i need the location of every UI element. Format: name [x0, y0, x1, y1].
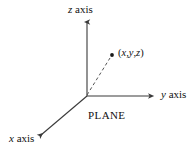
- origin-to-point-dashed-line: [87, 58, 110, 95]
- z-axis-label: z axis: [68, 4, 93, 15]
- x-axis-line: [41, 96, 87, 135]
- x-axis-label: x axis: [9, 133, 34, 144]
- paren-close: ): [140, 47, 144, 58]
- axes-drawing: [0, 0, 196, 151]
- y-axis-label: y axis: [161, 89, 186, 100]
- plane-label: PLANE: [88, 110, 125, 121]
- z-axis-label-word: axis: [72, 3, 92, 15]
- point-coordinates-label: (x,y,z): [118, 48, 144, 59]
- y-axis-label-word: axis: [166, 88, 186, 100]
- coordinate-axes-figure: z axis y axis x axis (x,y,z) PLANE: [0, 0, 196, 151]
- x-axis-label-word: axis: [14, 132, 34, 144]
- point-marker-dot: [110, 53, 114, 57]
